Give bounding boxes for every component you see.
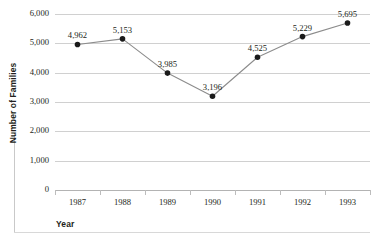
y-axis-tick-label: 5,000 (5, 38, 49, 47)
y-axis-tick-label: 1,000 (5, 156, 49, 165)
x-axis-tick-label: 1988 (100, 197, 146, 207)
x-axis-tick-label: 1989 (145, 197, 191, 207)
x-axis-tick-label: 1992 (280, 197, 326, 207)
x-axis-tick-mark (145, 190, 146, 195)
data-point-value-label: 4,525 (230, 43, 286, 53)
y-axis-tick-label: 6,000 (5, 9, 49, 18)
gridline (55, 131, 370, 132)
gridline (55, 102, 370, 103)
x-axis-tick-mark (100, 190, 101, 195)
gridline (55, 161, 370, 162)
x-axis-tick-mark (190, 190, 191, 195)
x-axis-tick-label: 1987 (55, 197, 101, 207)
axis-baseline (55, 190, 370, 191)
x-axis-tick-label: 1990 (190, 197, 236, 207)
y-axis-tick-label: 4,000 (5, 68, 49, 77)
data-point-value-label: 5,229 (275, 23, 331, 33)
x-axis-tick-label: 1993 (325, 197, 371, 207)
x-axis-title: Year (56, 219, 74, 229)
x-axis-tick-mark (55, 190, 56, 195)
data-point-value-label: 3,196 (185, 82, 241, 92)
chart-figure: Number of Families Year 01,0002,0003,000… (0, 0, 378, 247)
gridline (55, 43, 370, 44)
x-axis-tick-mark (370, 190, 371, 195)
bottom-margin-rule (14, 232, 370, 233)
x-axis-tick-mark (235, 190, 236, 195)
x-axis-tick-mark (325, 190, 326, 195)
y-axis-tick-label: 3,000 (5, 97, 49, 106)
y-axis-tick-label: 2,000 (5, 126, 49, 135)
data-point-value-label: 5,153 (95, 25, 151, 35)
gridline (55, 73, 370, 74)
x-axis-tick-mark (280, 190, 281, 195)
data-point-value-label: 5,695 (320, 9, 376, 19)
x-axis-tick-label: 1991 (235, 197, 281, 207)
y-axis-tick-label: 0 (5, 185, 49, 194)
data-point-value-label: 3,985 (140, 59, 196, 69)
